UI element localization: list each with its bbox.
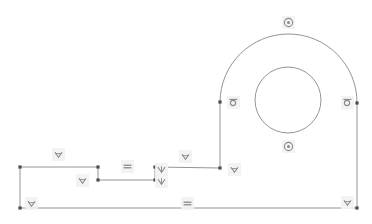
v-bottom-right[interactable] bbox=[355, 206, 358, 209]
v-top-left[interactable] bbox=[18, 165, 21, 168]
constraint-tangent-left[interactable] bbox=[227, 96, 240, 109]
constraint-horizontal-left-bottom[interactable] bbox=[25, 197, 38, 210]
sketch-canvas[interactable] bbox=[0, 0, 372, 224]
tangent-icon bbox=[342, 97, 353, 108]
constraint-horizontal-bottom-right[interactable] bbox=[341, 196, 354, 209]
constraint-concentric-bottom[interactable] bbox=[282, 140, 295, 153]
constraint-vertical-step2-lower[interactable] bbox=[155, 175, 168, 188]
v-step1-top[interactable] bbox=[96, 165, 99, 168]
constraint-tangent-right[interactable] bbox=[341, 96, 354, 109]
vertical-icon bbox=[156, 164, 167, 175]
constraint-horizontal-upper-mid[interactable] bbox=[179, 150, 192, 163]
constraint-horizontal-top-left[interactable] bbox=[52, 148, 65, 161]
concentric-icon bbox=[283, 17, 294, 28]
horizontal-icon bbox=[77, 175, 88, 186]
sketch-geometry bbox=[0, 0, 372, 224]
constraint-equal-step-horizontal[interactable] bbox=[121, 160, 134, 173]
circle-inner-bore[interactable] bbox=[255, 67, 321, 133]
constraint-concentric-top[interactable] bbox=[282, 16, 295, 29]
equal-icon bbox=[122, 161, 133, 172]
constraint-horizontal-step-upper[interactable] bbox=[76, 174, 89, 187]
concentric-icon bbox=[283, 141, 294, 152]
tangent-icon bbox=[228, 97, 239, 108]
v-step1-bottom[interactable] bbox=[96, 178, 99, 181]
v-arc-base-left[interactable] bbox=[218, 166, 221, 169]
arc-outer-top[interactable] bbox=[220, 34, 357, 103]
constraint-horizontal-arc-base[interactable] bbox=[228, 163, 241, 176]
equal-icon bbox=[182, 198, 193, 209]
constraint-equal-bottom[interactable] bbox=[181, 197, 194, 210]
horizontal-icon bbox=[229, 164, 240, 175]
horizontal-icon bbox=[53, 149, 64, 160]
vertical-icon bbox=[156, 176, 167, 187]
v-arc-end-right[interactable] bbox=[355, 101, 358, 104]
v-bottom-left[interactable] bbox=[18, 206, 21, 209]
horizontal-icon bbox=[342, 197, 353, 208]
horizontal-icon bbox=[26, 198, 37, 209]
horizontal-icon bbox=[180, 151, 191, 162]
v-arc-start-left[interactable] bbox=[218, 100, 221, 103]
